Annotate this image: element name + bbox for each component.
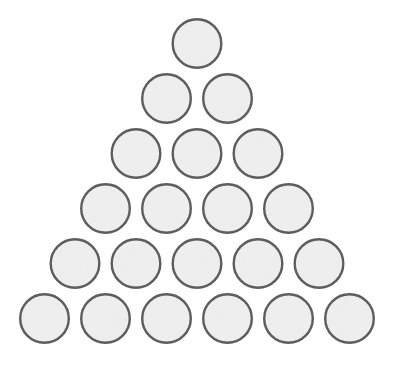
circle-row-1 xyxy=(173,19,222,68)
triangular-circle-arrangement xyxy=(0,0,395,365)
circle-c-3-2 xyxy=(173,129,222,178)
circle-c-4-1 xyxy=(81,184,130,233)
circle-c-3-1 xyxy=(112,129,161,178)
circle-row-3 xyxy=(112,129,283,178)
circle-c-2-2 xyxy=(203,74,252,123)
circle-c-6-1 xyxy=(20,294,69,343)
circle-c-1-1 xyxy=(173,19,222,68)
circle-c-5-5 xyxy=(295,239,344,288)
circle-c-5-3 xyxy=(173,239,222,288)
circle-c-3-3 xyxy=(234,129,283,178)
circle-c-2-1 xyxy=(142,74,191,123)
figure-canvas xyxy=(0,0,395,365)
circle-c-6-6 xyxy=(325,294,374,343)
circle-c-6-2 xyxy=(81,294,130,343)
circle-c-6-4 xyxy=(203,294,252,343)
circle-c-4-4 xyxy=(264,184,313,233)
circle-c-6-3 xyxy=(142,294,191,343)
circle-c-5-1 xyxy=(51,239,100,288)
circle-c-6-5 xyxy=(264,294,313,343)
circle-c-4-3 xyxy=(203,184,252,233)
circle-c-4-2 xyxy=(142,184,191,233)
circle-c-5-2 xyxy=(112,239,161,288)
circle-c-5-4 xyxy=(234,239,283,288)
